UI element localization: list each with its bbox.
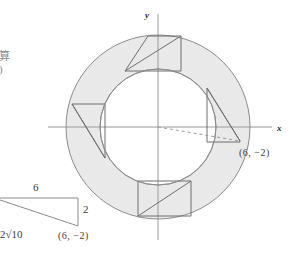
margin-text-line1: 算 (0, 50, 10, 64)
inset-top-label: 6 (33, 182, 39, 193)
inset-hyp-radical: √10 (6, 228, 23, 240)
margin-text-line2: ) (0, 63, 3, 77)
geometry-diagram (0, 0, 297, 254)
x-axis-label: x (277, 124, 282, 133)
inset-right-label: 2 (83, 204, 89, 215)
point-label-main: (6, −2) (239, 148, 270, 158)
figure-canvas: x y (6, −2) 6 2 2√10 (6, −2) 算 ) (0, 0, 297, 254)
point-label-inset: (6, −2) (58, 231, 89, 241)
y-axis-label: y (145, 11, 149, 20)
inset-hyp-label: 2√10 (0, 229, 23, 240)
